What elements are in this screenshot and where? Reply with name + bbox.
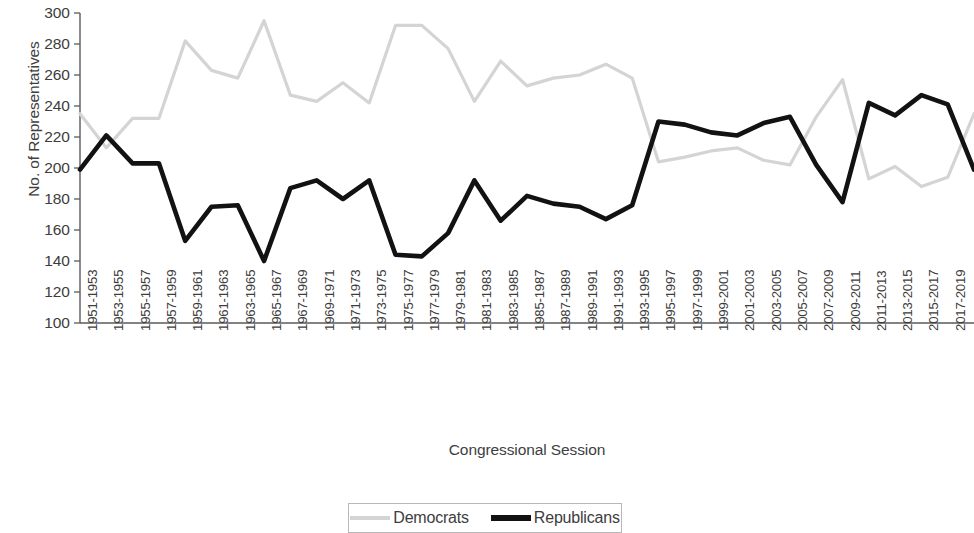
x-tick-label: 2003-2005 <box>769 270 784 331</box>
republicans-line <box>80 95 974 261</box>
x-tick-label: 1989-1991 <box>585 270 600 331</box>
x-tick-label: 1959-1961 <box>190 270 205 331</box>
legend-label-republicans: Republicans <box>534 509 620 527</box>
x-tick-label: 1967-1969 <box>295 270 310 331</box>
legend-item-democrats: Democrats <box>350 509 469 527</box>
x-tick-label: 2015-2017 <box>926 270 941 331</box>
x-tick-label: 2009-2011 <box>848 271 863 331</box>
x-tick-label: 1965-1967 <box>269 270 284 331</box>
x-tick-label: 1987-1989 <box>558 270 573 331</box>
legend-label-democrats: Democrats <box>393 509 469 527</box>
x-tick-label: 2017-2019 <box>953 270 968 331</box>
republicans-line-swatch-icon <box>491 515 531 521</box>
x-tick-label: 2007-2009 <box>821 270 836 331</box>
x-tick-label: 1997-1999 <box>690 270 705 331</box>
x-tick-label: 2011-2013 <box>874 271 889 331</box>
x-tick-label: 1963-1965 <box>243 270 258 331</box>
chart-legend: Democrats Republicans <box>348 503 622 533</box>
x-tick-label: 1951-1953 <box>85 270 100 331</box>
x-axis-title: Congressional Session <box>80 441 974 459</box>
democrats-line-swatch-icon <box>350 516 390 520</box>
line-chart: No. of Representatives 30028026024022020… <box>0 0 974 533</box>
series-lines <box>80 21 974 261</box>
x-tick-label: 1961-1963 <box>216 270 231 331</box>
x-tick-label: 1969-1971 <box>322 270 337 331</box>
x-tick-label: 1995-1997 <box>663 270 678 331</box>
x-tick-label: 1975-1977 <box>401 270 416 331</box>
x-tick-label: 1955-1957 <box>138 270 153 331</box>
x-tick-label: 1979-1981 <box>453 270 468 331</box>
x-tick-label: 1953-1955 <box>111 270 126 331</box>
legend-item-republicans: Republicans <box>491 509 620 527</box>
x-tick-label: 1957-1959 <box>164 270 179 331</box>
x-tick-label: 1971-1973 <box>348 270 363 331</box>
x-tick-label: 1999-2001 <box>716 270 731 331</box>
x-tick-label: 1983-1985 <box>506 270 521 331</box>
x-tick-label: 1981-1983 <box>479 270 494 331</box>
x-tick-label: 1993-1995 <box>637 270 652 331</box>
x-tick-label: 2001-2003 <box>742 270 757 331</box>
x-tick-label: 2013-2015 <box>900 270 915 331</box>
x-tick-label: 1991-1993 <box>611 270 626 331</box>
x-tick-label: 1985-1987 <box>532 270 547 331</box>
democrats-line <box>80 21 974 187</box>
x-tick-label: 2005-2007 <box>795 270 810 331</box>
axis-lines <box>74 13 974 323</box>
x-tick-label: 1973-1975 <box>374 270 389 331</box>
x-tick-label: 1977-1979 <box>427 270 442 331</box>
